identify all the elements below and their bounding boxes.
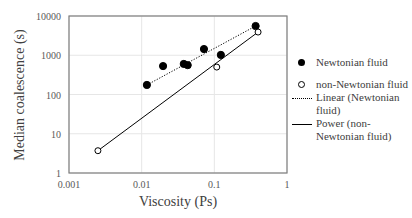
y-tick-label: 10000: [36, 11, 61, 22]
y-tick-label: 10: [51, 129, 61, 140]
x-axis-title: Viscosity (Ps): [139, 194, 217, 210]
x-tick-label: 0.001: [58, 179, 81, 190]
y-tick-label: 100: [46, 90, 61, 101]
x-tick-label: 1: [285, 179, 290, 190]
legend-label: Power (non-Newtonian fluid): [316, 117, 410, 143]
trendlines: [98, 26, 258, 151]
y-axis-ticks: 110100100010000: [36, 11, 61, 179]
newtonian-point: [217, 51, 224, 58]
newtonian-point: [184, 62, 191, 69]
newtonian-point: [159, 62, 166, 69]
legend-label: non-Newtonian fluid: [316, 78, 410, 91]
newtonian-point: [252, 22, 259, 29]
legend-item-linear-trend: Linear (Newtonian fluid): [292, 91, 410, 117]
y-tick-label: 1: [56, 168, 61, 179]
newtonian-point: [200, 45, 207, 52]
filled-circle-icon: [292, 56, 316, 69]
non-newtonian-point: [255, 29, 261, 35]
newtonian-point: [143, 81, 150, 88]
legend-item-non-newtonian: non-Newtonian fluid: [292, 78, 410, 91]
legend-item-power-trend: Power (non-Newtonian fluid): [292, 117, 410, 143]
y-axis-title: Median coalescence (s): [12, 29, 28, 161]
non-newtonian-point: [95, 148, 101, 154]
x-tick-label: 0.1: [208, 179, 221, 190]
gridlines: [69, 16, 287, 173]
legend-item-newtonian: Newtonian fluid: [292, 56, 410, 69]
dotted-line-icon: [292, 91, 316, 104]
power-trendline: [98, 32, 258, 151]
solid-line-icon: [292, 117, 316, 130]
x-tick-label: 0.01: [133, 179, 151, 190]
open-circle-icon: [292, 78, 316, 91]
y-tick-label: 1000: [41, 50, 61, 61]
legend: Newtonian fluid non-Newtonian fluid Line…: [292, 56, 410, 143]
legend-label: Newtonian fluid: [316, 56, 410, 69]
legend-label: Linear (Newtonian fluid): [316, 91, 410, 117]
x-axis-ticks: 0.0010.010.11: [58, 179, 290, 190]
non-newtonian-point: [214, 64, 220, 70]
